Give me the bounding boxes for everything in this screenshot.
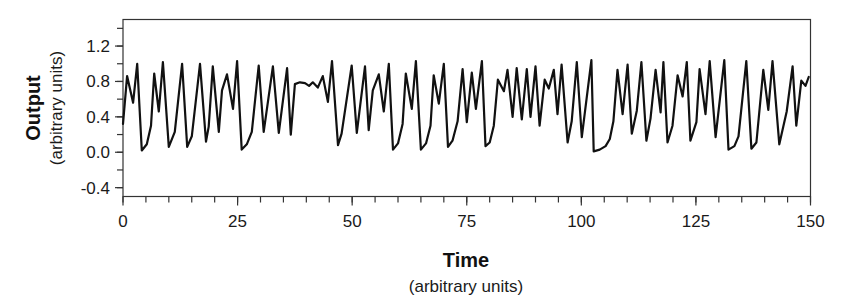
y-axis-ticks: -0.40.00.40.81.2: [81, 37, 123, 198]
y-tick-label: 0.4: [86, 108, 110, 127]
output-series-line: [123, 60, 809, 151]
y-minor-ticks: [117, 28, 123, 187]
x-axis-subtitle: (arbitrary units): [409, 277, 523, 296]
x-tick-label: 25: [228, 212, 247, 231]
line-chart: -0.40.00.40.81.2 0255075100125150 Output…: [0, 0, 846, 308]
y-axis-subtitle: (arbitrary units): [47, 51, 66, 165]
y-tick-label: -0.4: [81, 179, 110, 198]
x-tick-label: 75: [457, 212, 476, 231]
x-tick-label: 150: [796, 212, 824, 231]
x-axis-title: Time: [443, 249, 489, 271]
x-tick-label: 100: [567, 212, 595, 231]
x-tick-label: 125: [682, 212, 710, 231]
y-tick-label: 0.8: [86, 72, 110, 91]
x-tick-label: 0: [118, 212, 127, 231]
y-tick-label: 0.0: [86, 143, 110, 162]
y-axis-title: Output: [22, 75, 44, 141]
x-tick-label: 50: [343, 212, 362, 231]
y-tick-label: 1.2: [86, 37, 110, 56]
